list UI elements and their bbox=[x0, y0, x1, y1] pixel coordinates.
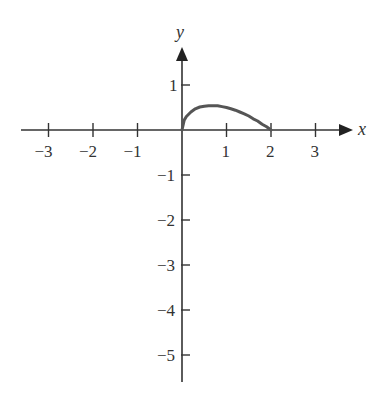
y-tick-label: −4 bbox=[157, 302, 175, 319]
x-tick-label: −1 bbox=[124, 143, 142, 160]
axes bbox=[21, 47, 353, 382]
y-tick-label: −2 bbox=[157, 212, 175, 229]
x-tick-label: −2 bbox=[79, 143, 97, 160]
plot-area bbox=[0, 0, 386, 400]
x-tick-label: 2 bbox=[266, 143, 275, 160]
x-axis-arrow-icon bbox=[339, 124, 353, 136]
x-tick-label: 3 bbox=[311, 143, 320, 160]
x-tick-label: −3 bbox=[35, 143, 53, 160]
y-axis-arrow-icon bbox=[176, 47, 188, 61]
y-tick-label: −3 bbox=[157, 257, 175, 274]
y-axis-label: y bbox=[176, 23, 184, 41]
y-tick-label: −5 bbox=[157, 347, 175, 364]
y-tick-label: −1 bbox=[157, 167, 175, 184]
y-tick-label: 1 bbox=[169, 77, 178, 94]
x-tick-label: 1 bbox=[222, 143, 231, 160]
x-axis-label: x bbox=[358, 120, 366, 138]
